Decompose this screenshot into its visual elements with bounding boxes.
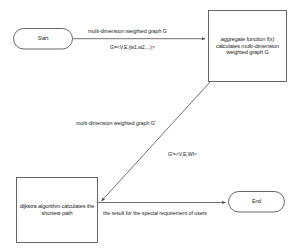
edge-aggregate-to-dijkstra [102, 82, 211, 201]
edge-label-start-to-aggregate: multi-dimension weighted graph G [88, 28, 167, 34]
node-end-shape[interactable] [229, 192, 285, 213]
node-aggregate-shape[interactable] [209, 11, 287, 82]
edge-label-aggregate-to-dijkstra: multi-dimension weighted graph G' [76, 120, 156, 126]
edge-formula-aggregate-to-dijkstra: G'=<V,E,Wf> [168, 151, 197, 157]
edge-label-dijkstra-to-end: the result for the special requirement o… [103, 210, 207, 216]
node-start-shape[interactable] [14, 29, 73, 50]
edge-formula-start-to-aggregate: G=<V,E,{w1,w2,...}> [110, 44, 155, 50]
node-dijkstra-shape[interactable] [17, 178, 98, 243]
flowchart-canvas: Start aggregate function f(x) calculates… [0, 0, 299, 251]
